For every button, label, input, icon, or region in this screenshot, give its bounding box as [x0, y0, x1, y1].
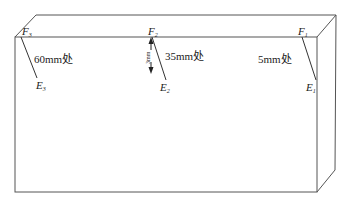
crack-path-3: F3 E3 60mm处 [21, 25, 73, 92]
crack-path-2: F2 E2 35mm处 3mm [145, 25, 204, 94]
depth-label: 3mm [145, 51, 151, 64]
label-e3: E3 [35, 79, 46, 92]
block-diagram: F3 E3 60mm处 F2 E2 35mm处 3mm F1 E1 5mm处 [0, 0, 349, 205]
label-f1: F1 [297, 25, 308, 38]
label-f3: F3 [21, 25, 32, 38]
position-label-5mm: 5mm处 [258, 53, 292, 65]
label-e2: E2 [159, 81, 170, 94]
position-label-35mm: 35mm处 [165, 50, 204, 62]
block-outline [15, 15, 336, 192]
label-e1: E1 [305, 81, 316, 94]
position-label-60mm: 60mm处 [34, 53, 73, 65]
crack-path-1: F1 E1 5mm处 [258, 25, 316, 94]
label-f2: F2 [147, 25, 158, 38]
